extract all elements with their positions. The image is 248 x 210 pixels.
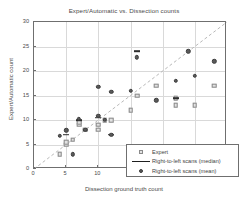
- circle-marker-icon: [130, 169, 152, 173]
- x-tick-label: 0: [31, 170, 34, 176]
- data-point-square: [64, 140, 69, 145]
- x-axis-label: Dissection ground truth count: [0, 186, 248, 192]
- y-tick-label: 10: [3, 116, 29, 122]
- y-tick-mark: [33, 168, 36, 169]
- data-point-square: [173, 103, 178, 108]
- legend-item[interactable]: Right-to-left scans (mean): [127, 166, 238, 176]
- square-marker-icon: [130, 150, 152, 155]
- y-tick-mark: [33, 119, 36, 120]
- data-point-square: [212, 83, 217, 88]
- y-tick-mark: [33, 144, 36, 145]
- legend-item[interactable]: Expert: [127, 147, 238, 157]
- x-tick-mark: [65, 165, 66, 168]
- chart-figure: Expert/Automatic vs. Dissection counts 0…: [0, 0, 248, 210]
- data-point-line: [173, 97, 179, 99]
- y-tick-mark: [33, 95, 36, 96]
- x-tick-label: 10: [94, 170, 100, 176]
- chart-legend: ExpertRight-to-left scans (median)Right-…: [126, 144, 239, 177]
- y-tick-label: 20: [3, 67, 29, 73]
- data-point-square: [96, 128, 101, 133]
- data-point-square: [154, 83, 159, 88]
- y-tick-label: 5: [3, 141, 29, 147]
- data-point-square: [96, 123, 101, 128]
- data-point-square: [128, 108, 133, 113]
- y-tick-label: 0: [3, 165, 29, 171]
- data-point-square: [70, 137, 75, 142]
- chart-title: Expert/Automatic vs. Dissection counts: [0, 7, 248, 14]
- data-point-square: [57, 152, 62, 157]
- data-point-line: [63, 134, 69, 136]
- y-tick-label: 25: [3, 43, 29, 49]
- y-axis-label: Expert/Automatic count: [8, 34, 14, 144]
- legend-item[interactable]: Right-to-left scans (median): [127, 157, 238, 167]
- data-point-square: [193, 103, 198, 108]
- data-point-square: [109, 118, 114, 123]
- data-point-square: [135, 93, 140, 98]
- legend-item-label: Right-to-left scans (mean): [152, 168, 216, 174]
- y-tick-label: 15: [3, 92, 29, 98]
- y-tick-mark: [33, 21, 36, 22]
- x-tick-label: 5: [64, 170, 67, 176]
- y-tick-mark: [33, 46, 36, 47]
- data-point-line: [134, 51, 140, 53]
- x-tick-mark: [97, 165, 98, 168]
- y-tick-mark: [33, 70, 36, 71]
- legend-item-label: Expert: [152, 149, 168, 155]
- data-point-square: [77, 120, 82, 125]
- legend-item-label: Right-to-left scans (median): [152, 158, 221, 164]
- y-tick-label: 30: [3, 18, 29, 24]
- line-marker-icon: [130, 161, 152, 163]
